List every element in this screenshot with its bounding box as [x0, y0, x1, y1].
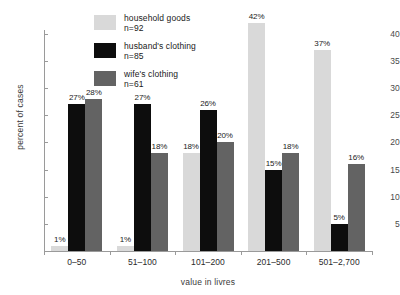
legend-series-name: household goods [124, 13, 190, 23]
bar [265, 170, 282, 251]
y-tick [44, 197, 48, 198]
legend-series-count: n=85 [124, 51, 196, 61]
y-axis-title: percent of cases [15, 69, 25, 165]
category-label: 101–200 [173, 257, 243, 267]
y-tick [44, 224, 48, 225]
y-tick-label: 5 [364, 219, 400, 229]
legend-label: household goodsn=92 [124, 13, 190, 33]
y-tick [44, 170, 48, 171]
bar [51, 246, 68, 251]
x-tick [241, 251, 242, 255]
legend-label: husband's clothingn=85 [124, 41, 196, 61]
legend-series-name: husband's clothing [124, 41, 196, 51]
bar [331, 224, 348, 251]
bar-value-label: 27% [127, 93, 157, 102]
bar-value-label: 20% [210, 131, 240, 140]
y-tick-label: 20 [364, 137, 400, 147]
y-tick-label: 15 [364, 165, 400, 175]
legend-series-count: n=61 [124, 79, 178, 89]
y-axis-line [44, 30, 45, 252]
x-tick [110, 251, 111, 255]
bar [282, 153, 299, 251]
y-tick [44, 88, 48, 89]
category-label: 0–50 [42, 257, 112, 267]
legend-series-name: wife's clothing [124, 69, 178, 79]
category-label: 501–2,700 [304, 257, 374, 267]
bar [248, 23, 265, 251]
x-tick [306, 251, 307, 255]
y-tick [44, 142, 48, 143]
y-tick-label: 10 [364, 192, 400, 202]
bar-value-label: 42% [242, 12, 272, 21]
x-axis-title: value in livres [44, 277, 372, 287]
bar [85, 99, 102, 251]
y-tick [44, 34, 48, 35]
bar-value-label: 18% [144, 142, 174, 151]
y-tick-label: 25 [364, 110, 400, 120]
x-axis-line [44, 251, 372, 252]
y-tick-label: 40 [364, 29, 400, 39]
y-tick [44, 115, 48, 116]
bar [151, 153, 168, 251]
bar [217, 142, 234, 251]
legend-swatch [94, 71, 116, 86]
y-tick [44, 61, 48, 62]
bar-value-label: 16% [341, 153, 371, 162]
bar-value-label: 37% [307, 39, 337, 48]
x-tick [44, 251, 45, 255]
legend-series-count: n=92 [124, 23, 190, 33]
x-tick [372, 251, 373, 255]
category-label: 201–500 [239, 257, 309, 267]
category-label: 51–100 [107, 257, 177, 267]
bar-value-label: 28% [79, 88, 109, 97]
bar [68, 104, 85, 251]
legend-label: wife's clothingn=61 [124, 69, 178, 89]
bar-value-label: 26% [193, 99, 223, 108]
bar [117, 246, 134, 251]
y-tick-label: 35 [364, 56, 400, 66]
bar-value-label: 18% [276, 142, 306, 151]
legend-swatch [94, 15, 116, 30]
bar [183, 153, 200, 251]
x-tick [175, 251, 176, 255]
bar [348, 164, 365, 251]
bar-chart: 510152025303540 percent of cases value i… [0, 0, 400, 295]
bar [134, 104, 151, 251]
legend-swatch [94, 43, 116, 58]
y-tick-label: 30 [364, 83, 400, 93]
